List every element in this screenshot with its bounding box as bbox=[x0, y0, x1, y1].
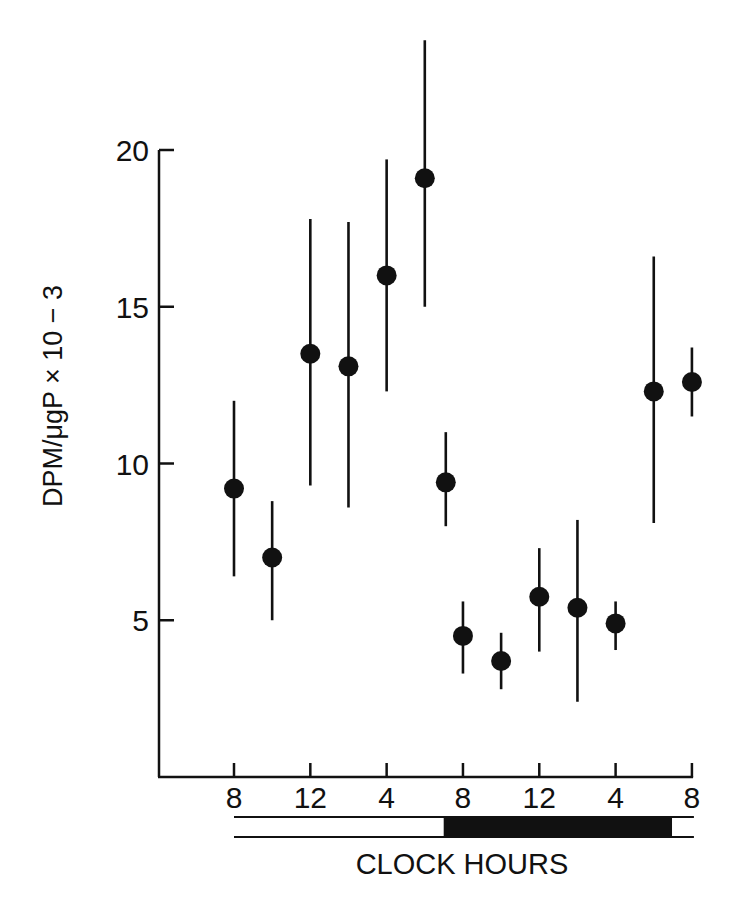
data-point bbox=[567, 598, 587, 618]
x-tick-label: 8 bbox=[684, 781, 701, 814]
chart-figure: 5101520 812481248 DPM/μgP × 10 − 3 CLOCK… bbox=[0, 0, 738, 912]
y-tick-label: 15 bbox=[116, 291, 149, 324]
x-tick-label: 8 bbox=[226, 781, 243, 814]
data-point bbox=[300, 344, 320, 364]
y-tick-label: 5 bbox=[132, 604, 149, 637]
data-point bbox=[377, 265, 397, 285]
x-tick-label: 4 bbox=[378, 781, 395, 814]
x-tick-label: 4 bbox=[607, 781, 624, 814]
data-point bbox=[415, 168, 435, 188]
data-point bbox=[644, 381, 664, 401]
y-axis-title: DPM/μgP × 10 − 3 bbox=[38, 285, 68, 507]
data-point bbox=[529, 587, 549, 607]
dark-period-block bbox=[444, 817, 672, 837]
data-point bbox=[224, 479, 244, 499]
x-tick-label: 8 bbox=[455, 781, 472, 814]
y-tick-label: 10 bbox=[116, 448, 149, 481]
data-point bbox=[338, 356, 358, 376]
data-point bbox=[453, 626, 473, 646]
data-point bbox=[436, 472, 456, 492]
x-tick-label: 12 bbox=[523, 781, 556, 814]
x-axis-title: CLOCK HOURS bbox=[356, 848, 569, 880]
data-point bbox=[682, 372, 702, 392]
data-point bbox=[491, 651, 511, 671]
y-tick-label: 20 bbox=[116, 134, 149, 167]
x-axis-ticks: 812481248 bbox=[226, 763, 701, 814]
data-points bbox=[224, 168, 702, 671]
data-point bbox=[606, 613, 626, 633]
light-dark-bar bbox=[234, 817, 694, 837]
data-point bbox=[262, 548, 282, 568]
y-axis-ticks: 5101520 bbox=[116, 134, 174, 637]
error-bars bbox=[234, 40, 692, 701]
x-tick-label: 12 bbox=[294, 781, 327, 814]
